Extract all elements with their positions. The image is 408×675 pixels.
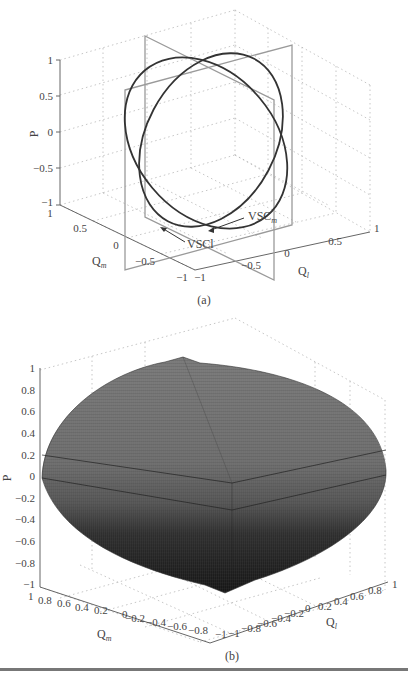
qm-axis-label-a: Qm xyxy=(92,254,107,270)
ql-axis-label-b: Ql xyxy=(326,615,338,631)
vscl-label: VSCl xyxy=(187,237,214,251)
panel-b-caption: (b) xyxy=(225,649,239,663)
panel-a-circles xyxy=(91,25,320,261)
qm-tick-b: 0.8 xyxy=(38,594,52,606)
qm-tick-a: 0 xyxy=(113,239,119,251)
figure-canvas: 1 0.5 0 −0.5 −1 P 1 0.5 0 −0.5 −1 Qm −1 … xyxy=(0,0,408,675)
ql-tick-a: 0 xyxy=(284,247,290,259)
z-tick-b: 0 xyxy=(30,470,36,482)
ql-tick-b: 0 xyxy=(305,602,311,614)
z-tick-b: 1 xyxy=(30,362,36,374)
z-axis-label-b: P xyxy=(0,474,14,481)
qm-tick-b: 0.4 xyxy=(75,601,89,613)
qm-tick-a: −1 xyxy=(176,271,188,283)
vscm-label: VSCm xyxy=(248,209,277,225)
z-axis-label-a: P xyxy=(27,130,41,137)
z-tick-b: −0.8 xyxy=(15,557,35,569)
ql-tick-b: 0.4 xyxy=(334,595,348,607)
panel-a-grid xyxy=(60,10,370,270)
z-tick-a: 0 xyxy=(48,126,54,138)
ql-tick-a: −1 xyxy=(194,271,206,283)
ql-tick-a: 0.5 xyxy=(328,235,342,247)
z-tick-b: −0.2 xyxy=(15,492,35,504)
z-tick-b: 0.8 xyxy=(21,384,35,396)
qm-axis-label-b: Qm xyxy=(97,627,112,643)
ql-tick-b: −0.2 xyxy=(284,607,304,619)
ql-tick-a: −0.5 xyxy=(241,259,261,271)
z-tick-b: 0.2 xyxy=(21,449,35,461)
ql-tick-a: 1 xyxy=(374,222,380,234)
qm-tick-b: 0.6 xyxy=(57,597,71,609)
vscm-circle xyxy=(110,28,311,251)
z-tick-b: 0.6 xyxy=(21,405,35,417)
page-divider xyxy=(0,668,408,671)
z-tick-b: 0.4 xyxy=(21,427,35,439)
qm-tick-b: 1 xyxy=(28,590,34,602)
qm-tick-b: −0.2 xyxy=(125,612,145,624)
qm-tick-b: −1 xyxy=(215,628,227,640)
ql-tick-b: 0.8 xyxy=(368,584,382,596)
z-tick-a: −0.5 xyxy=(33,162,53,174)
qm-tick-a: 1 xyxy=(47,207,53,219)
panel-b-plot: 1 0.8 0.6 0.4 0.2 0 −0.2 −0.4 −0.6 −0.8 … xyxy=(0,318,398,663)
panel-a-plot: 1 0.5 0 −0.5 −1 P 1 0.5 0 −0.5 −1 Qm −1 … xyxy=(27,10,380,307)
ql-tick-b: −1 xyxy=(228,627,240,639)
ql-axis-label-a: Ql xyxy=(298,264,310,280)
panel-a-caption: (a) xyxy=(197,293,210,307)
qm-tick-b: −0.6 xyxy=(167,620,187,632)
z-tick-b: −0.4 xyxy=(15,513,35,525)
ql-tick-b: 1 xyxy=(392,578,398,590)
qm-tick-a: 0.5 xyxy=(73,222,87,234)
qm-tick-b: −0.8 xyxy=(188,624,208,636)
qm-tick-a: −0.5 xyxy=(135,255,155,267)
qm-tick-b: 0.2 xyxy=(94,604,108,616)
ql-tick-b: 0.6 xyxy=(350,590,364,602)
ql-tick-b: 0.2 xyxy=(318,600,332,612)
qm-tick-b: −0.4 xyxy=(146,616,166,628)
z-tick-b: −1 xyxy=(23,578,35,590)
z-tick-b: −0.6 xyxy=(15,535,35,547)
z-tick-a: 1 xyxy=(48,54,54,66)
z-tick-a: 0.5 xyxy=(39,90,53,102)
qm-axis-a xyxy=(60,205,195,270)
